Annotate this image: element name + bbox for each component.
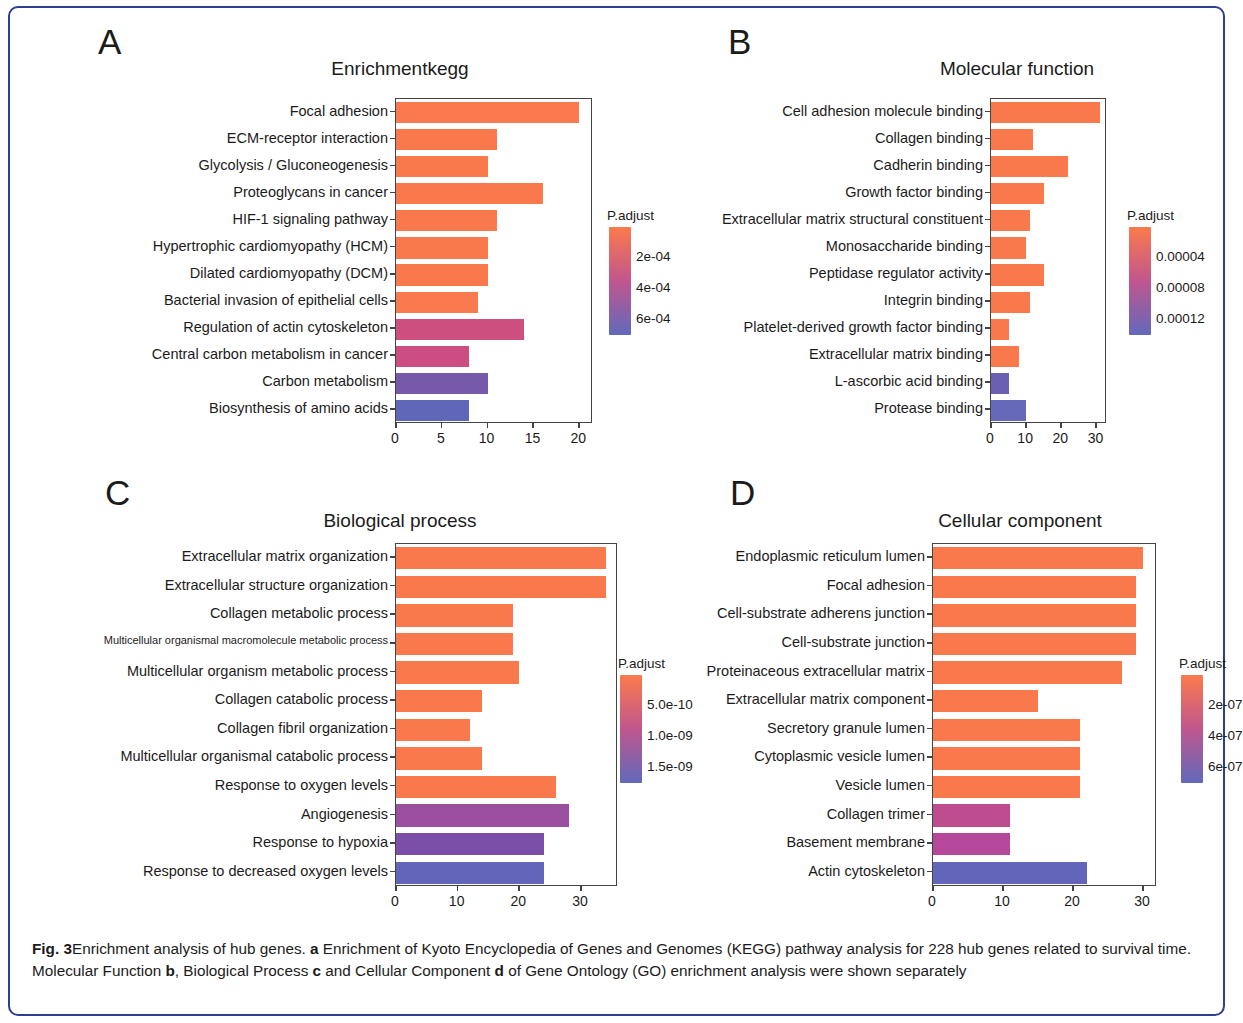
x-tick-mark <box>580 886 582 891</box>
category-label: Multicellular organismal catabolic proce… <box>10 749 388 764</box>
x-tick-label: 10 <box>994 893 1010 909</box>
category-label: L-ascorbic acid binding <box>622 374 983 389</box>
bar <box>933 719 1080 741</box>
legend-tick-label: 4e-07 <box>1208 728 1243 743</box>
category-label: Secretory granule lumen <box>622 721 925 736</box>
x-tick-mark <box>1072 886 1074 891</box>
y-tick-mark <box>985 192 990 194</box>
y-tick-mark <box>927 585 932 587</box>
bar <box>396 604 513 626</box>
bar <box>396 661 519 683</box>
bar <box>991 237 1026 258</box>
category-label: Basement membrane <box>622 835 925 850</box>
y-tick-mark <box>927 613 932 615</box>
caption-ref-c: c <box>313 962 322 979</box>
bar <box>933 833 1010 855</box>
bar <box>396 833 544 855</box>
x-tick-mark <box>487 423 489 428</box>
bar <box>396 183 543 204</box>
y-tick-mark <box>985 165 990 167</box>
category-label: Cell adhesion molecule binding <box>622 104 983 119</box>
caption-ref-b: b <box>165 962 174 979</box>
category-label: Extracellular matrix component <box>622 692 925 707</box>
y-tick-mark <box>390 613 395 615</box>
category-label: Proteinaceous extracellular matrix <box>622 664 925 679</box>
category-label: Platelet-derived growth factor binding <box>622 320 983 335</box>
y-tick-mark <box>390 192 395 194</box>
bar <box>933 862 1087 884</box>
bar <box>991 346 1019 367</box>
category-label: Cell-substrate junction <box>622 635 925 650</box>
bar <box>933 576 1136 598</box>
bar <box>396 547 606 569</box>
caption-text-3: , Biological Process <box>175 962 313 979</box>
bar <box>991 264 1044 285</box>
x-tick-mark <box>518 886 520 891</box>
x-tick-label: 20 <box>1053 430 1069 446</box>
category-label: Endoplasmic reticulum lumen <box>622 549 925 564</box>
bar <box>396 129 497 150</box>
y-tick-mark <box>390 354 395 356</box>
y-tick-mark <box>390 585 395 587</box>
category-label: Bacterial invasion of epithelial cells <box>10 293 388 308</box>
bar <box>933 661 1122 683</box>
category-label: Monosaccharide binding <box>622 239 983 254</box>
x-tick-mark <box>441 423 443 428</box>
bar <box>396 373 488 394</box>
x-tick-mark <box>578 423 580 428</box>
x-tick-mark <box>1060 423 1062 428</box>
panel-a: A Enrichmentkegg Focal adhesionECM-recep… <box>10 8 625 468</box>
category-label: Dilated cardiomyopathy (DCM) <box>10 266 388 281</box>
y-tick-mark <box>985 381 990 383</box>
bar <box>396 633 513 655</box>
y-tick-mark <box>390 556 395 558</box>
bar <box>933 804 1010 826</box>
caption-text-4: and Cellular Component <box>321 962 494 979</box>
y-tick-mark <box>390 842 395 844</box>
x-tick-mark <box>932 886 934 891</box>
category-label: HIF-1 signaling pathway <box>10 212 388 227</box>
legend-tick-label: 0.00008 <box>1156 280 1205 295</box>
x-tick-mark <box>457 886 459 891</box>
x-tick-mark <box>1142 886 1144 891</box>
y-tick-mark <box>390 165 395 167</box>
category-label: Hypertrophic cardiomyopathy (HCM) <box>10 239 388 254</box>
bar <box>396 346 469 367</box>
y-tick-mark <box>985 219 990 221</box>
caption-text-1: Enrichment analysis of hub genes. <box>72 940 310 957</box>
category-label: Central carbon metabolism in cancer <box>10 347 388 362</box>
panel-a-letter: A <box>98 22 121 62</box>
category-label: Response to oxygen levels <box>10 778 388 793</box>
x-tick-label: 0 <box>986 430 994 446</box>
category-label: Vesicle lumen <box>622 778 925 793</box>
x-tick-label: 20 <box>1064 893 1080 909</box>
bar <box>933 547 1143 569</box>
bar <box>396 264 488 285</box>
x-tick-label: 5 <box>437 430 445 446</box>
y-tick-mark <box>927 728 932 730</box>
y-tick-mark <box>927 814 932 816</box>
legend-title: P.adjust <box>1127 208 1174 223</box>
panel-d: D Cellular component Endoplasmic reticul… <box>622 458 1227 928</box>
category-label: ECM-receptor interaction <box>10 131 388 146</box>
category-label: Response to decreased oxygen levels <box>10 864 388 879</box>
y-tick-mark <box>927 756 932 758</box>
bar <box>396 319 524 340</box>
bar <box>396 210 497 231</box>
bar <box>933 633 1136 655</box>
bar <box>991 292 1030 313</box>
legend-tick-label: 6e-07 <box>1208 759 1243 774</box>
panel-a-plot-area <box>395 98 592 423</box>
panel-c: C Biological process Extracellular matri… <box>10 458 625 928</box>
y-tick-mark <box>927 699 932 701</box>
y-tick-mark <box>927 871 932 873</box>
bar <box>933 690 1038 712</box>
y-tick-mark <box>390 327 395 329</box>
figure-frame: A Enrichmentkegg Focal adhesionECM-recep… <box>8 6 1225 1016</box>
legend-color-gradient <box>1129 227 1151 335</box>
bar <box>396 804 569 826</box>
panel-c-letter: C <box>105 473 130 513</box>
y-tick-mark <box>985 246 990 248</box>
y-tick-mark <box>390 138 395 140</box>
bar <box>396 400 469 421</box>
